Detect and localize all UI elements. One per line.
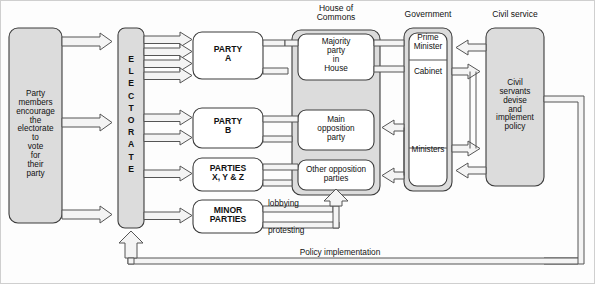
arrow-civilservice-to-pm [456,40,486,55]
government-header: Government [388,10,468,19]
prime-minister-label: Prime Minister [409,34,447,52]
cabinet-label: Cabinet [405,68,451,77]
lobbying-label: lobbying [268,199,338,208]
link-parties-xyz-to-other-opposition [263,164,298,170]
electorate-letter-10: E [118,163,144,175]
party-b-line2: B [193,126,263,135]
party-b-label: PARTY B [193,117,263,136]
majority-party-label: Majority party in House [298,38,374,73]
other-opposition-label: Other opposition parties [298,166,374,184]
civil-service-header: Civil service [480,10,550,19]
ministers-label: Ministers [404,146,452,155]
electorate-letter-3: E [118,77,144,89]
arrow-government-to-other-opposition [382,168,404,183]
policy-implementation-label: Policy implementation [240,248,440,257]
electorate-letter-5: T [118,102,144,114]
government-inner-box [409,33,447,186]
other-opposition-line2: parties [298,175,374,184]
electorate-letter-9: T [118,151,144,163]
house-of-commons-header-line2: Commons [292,13,380,22]
arrow-members-to-electorate-1 [62,33,112,50]
electorate-letter-7: R [118,126,144,138]
main-opposition-label: Main opposition party [298,116,374,143]
house-of-commons-header: House of Commons [292,4,380,22]
arrows-electorate-to-party-a [144,32,192,83]
main-opposition-line3: party [298,134,374,143]
electorate-letter-6: O [118,114,144,126]
majority-party-line4: House [298,65,374,74]
prime-minister-line2: Minister [409,43,447,52]
arrows-electorate-to-party-b [144,110,192,145]
link-parties-xyz-lower-stub [263,180,292,186]
link-majority-to-pm [374,40,404,46]
civil-servants-line6: policy [486,123,544,132]
party-a-line2: A [193,54,263,63]
arrow-members-to-electorate-3 [62,206,112,223]
link-majority-to-cabinet [374,66,404,72]
minor-parties-line2: PARTIES [193,215,263,224]
arrow-electorate-to-minor-parties [144,208,192,223]
parties-xyz-label: PARTIES X, Y & Z [193,164,263,183]
arrow-civilservice-to-ministers [456,163,486,178]
arrow-electorate-to-parties-xyz [144,166,192,181]
link-party-a-to-majority-2 [285,40,298,46]
electorate-letter-1: E [118,53,144,65]
parties-xyz-line2: X, Y & Z [193,173,263,182]
electorate-label: E L E C T O R A T E [118,53,144,175]
link-party-a-lower-stub [263,68,288,74]
protesting-label: protesting [268,226,348,235]
arrow-government-to-main-opposition [382,120,404,135]
link-party-b-lower-stub [263,136,292,142]
minor-parties-label: MINOR PARTIES [193,206,263,225]
civil-servants-label: Civil servants devise and implement poli… [486,79,544,132]
party-a-label: PARTY A [193,45,263,64]
electorate-letter-8: A [118,138,144,150]
link-party-a-to-majority [263,40,285,46]
party-members-label: Party members encourage the electorate t… [9,90,62,179]
link-party-b-to-main-opposition [263,116,298,122]
diagram-canvas: .bx{fill:#dcdcdc;stroke:#3c3c3c;stroke-w… [0,0,595,284]
electorate-letter-4: C [118,90,144,102]
electorate-letter-2: L [118,65,144,77]
arrow-members-to-electorate-2 [62,114,112,131]
party-members-line-10: party [9,170,62,179]
